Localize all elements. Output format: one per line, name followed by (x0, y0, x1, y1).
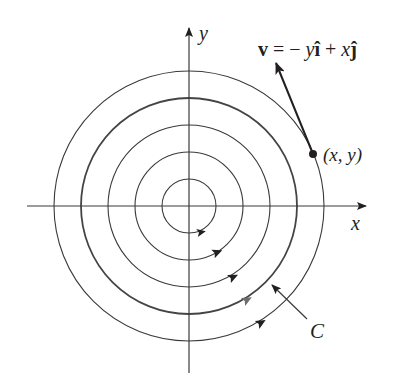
vector-field-diagram: y x (x, y) C v = − yî + xĵ (0, 0, 399, 391)
var-x: x (340, 38, 350, 60)
velocity-vector (276, 63, 313, 154)
arrowhead-icon (211, 246, 224, 258)
vector-equation: v = − yî + xĵ (258, 38, 357, 61)
unit-j: ĵ (349, 38, 357, 61)
direction-arrows (196, 227, 268, 329)
x-axis-label: x (350, 212, 360, 234)
var-y: y (304, 38, 315, 61)
point-marker (309, 150, 317, 158)
y-axis-label: y (197, 22, 208, 45)
vector-v: v (258, 38, 268, 60)
curve-c-label: C (310, 319, 325, 343)
plus-sign: + (320, 38, 341, 60)
point-label: (x, y) (323, 144, 362, 166)
arrowhead-icon (255, 316, 268, 329)
curve-c-pointer (272, 285, 307, 319)
equals-minus: = − (268, 38, 306, 60)
